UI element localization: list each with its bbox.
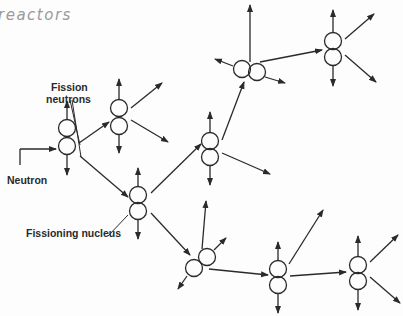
nucleus-n2: [111, 79, 169, 153]
nucleus-n3-fissioning: [130, 144, 202, 255]
label-fission-line1: Fission: [46, 81, 91, 93]
incoming-neutron-arrow: [20, 149, 56, 165]
nucleus-n6: [325, 10, 377, 86]
nucleus-n5: [215, 5, 322, 83]
label-fission-line2: neutrons: [46, 93, 91, 105]
neutron-path: [80, 156, 128, 197]
label-leader-lines: [70, 100, 128, 236]
nucleus-n9: [350, 235, 401, 310]
label-fissioning-nucleus: Fissioning nucleus: [26, 227, 121, 239]
chain-reaction-diagram: reactors: [0, 0, 403, 316]
label-fission-neutrons: Fission neutrons: [46, 81, 91, 105]
label-neutron: Neutron: [7, 174, 47, 186]
nucleus-n4: [202, 82, 271, 185]
neutron-path: [79, 122, 109, 143]
nucleus-n8: [270, 210, 347, 313]
diagram-graphics: [0, 0, 403, 316]
nucleus-n7: [178, 201, 268, 289]
